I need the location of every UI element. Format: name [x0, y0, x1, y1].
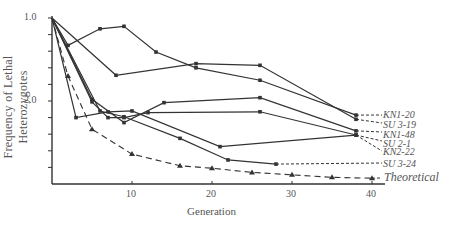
- series-label-kn2-22: KN2-22: [383, 146, 415, 157]
- plot-lines: [52, 18, 382, 180]
- x-tick-label: 30: [286, 188, 296, 199]
- series-label-su3-24: SU 3-24: [383, 158, 416, 169]
- y-tick-label: 1.0: [24, 11, 37, 22]
- x-tick-label: 20: [206, 188, 216, 199]
- y-axis-label: Frequency of Lethal Heterozygotes: [1, 27, 31, 187]
- x-tick-label: 10: [126, 188, 136, 199]
- x-tick-label: 40: [366, 188, 376, 199]
- y-tick-label: 2.0: [24, 94, 37, 105]
- series-label-theoretical: Theoretical: [384, 170, 439, 185]
- x-axis-label: Generation: [0, 205, 453, 217]
